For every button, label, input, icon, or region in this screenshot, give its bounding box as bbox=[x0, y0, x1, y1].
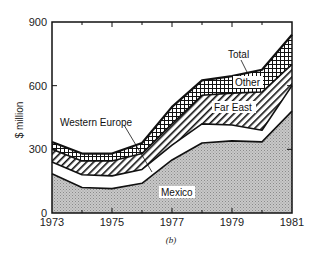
annotation-mexico: Mexico bbox=[161, 187, 193, 198]
annotation-far-east: Far East bbox=[214, 102, 252, 113]
y-tick-300: 300 bbox=[29, 143, 47, 155]
x-tick-1973: 1973 bbox=[40, 216, 64, 228]
y-tick-600: 600 bbox=[29, 80, 47, 92]
annotation-other: Other bbox=[235, 77, 261, 88]
y-axis-label: $ million bbox=[14, 102, 25, 139]
x-tick-1977: 1977 bbox=[160, 216, 184, 228]
annotation-total: Total bbox=[228, 49, 249, 60]
stacked-area-chart: 0 300 600 900 1973 1975 1977 1979 1981 $… bbox=[0, 0, 318, 257]
x-tick-1979: 1979 bbox=[220, 216, 244, 228]
figure-subtitle: (b) bbox=[166, 235, 177, 245]
x-tick-1981: 1981 bbox=[280, 216, 304, 228]
x-tick-1975: 1975 bbox=[100, 216, 124, 228]
y-tick-900: 900 bbox=[29, 16, 47, 28]
total-leader-line bbox=[241, 60, 247, 72]
annotation-western-europe: Western Europe bbox=[60, 117, 133, 128]
